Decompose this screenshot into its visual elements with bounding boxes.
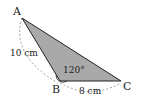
vertex-label-a: A xyxy=(12,5,22,18)
side-bc-label: 8 cm xyxy=(79,86,102,96)
vertex-label-c: C xyxy=(123,80,131,93)
triangle-diagram: A B C 120° 10 cm 8 cm xyxy=(0,0,141,104)
side-ab-label: 10 cm xyxy=(10,48,38,58)
vertex-label-b: B xyxy=(52,83,60,96)
angle-b-label: 120° xyxy=(63,65,85,75)
